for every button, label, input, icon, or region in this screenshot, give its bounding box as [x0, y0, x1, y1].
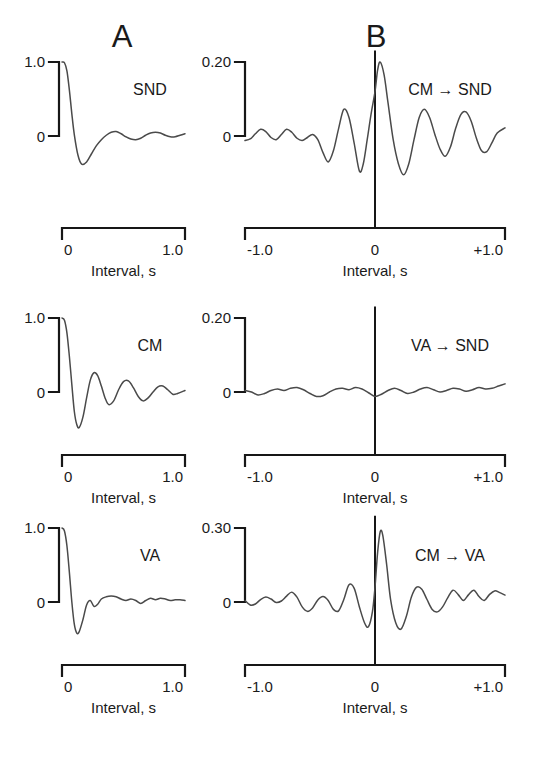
x-axis-title: Interval, s [342, 699, 407, 716]
y-tick-label-max: 0.20 [202, 53, 231, 70]
series-label: CM → VA [415, 547, 485, 564]
y-tick-label-max: 1.0 [24, 519, 45, 536]
y-tick-label-zero: 0 [37, 384, 45, 401]
x-tick-label: 0 [64, 678, 72, 695]
series-label: CM [138, 337, 163, 354]
x-axis-title: Interval, s [342, 262, 407, 279]
panel-letter-b: B [366, 19, 387, 54]
y-tick-label-zero: 0 [223, 128, 231, 145]
series-label: SND [133, 81, 167, 98]
y-tick-label-zero: 0 [223, 384, 231, 401]
y-tick-label-max: 0.30 [202, 519, 231, 536]
panel-letter-a: A [112, 19, 133, 54]
series-label: VA → SND [411, 337, 489, 354]
x-tick-label: 0 [371, 678, 379, 695]
y-tick-label-zero: 0 [223, 594, 231, 611]
x-axis-title: Interval, s [91, 699, 156, 716]
y-tick-label-zero: 0 [37, 128, 45, 145]
x-tick-label: 0 [371, 468, 379, 485]
figure-container: A B 1.0001.0Interval, sSND0.200-1.00+1.0… [0, 0, 546, 778]
x-tick-label: -1.0 [247, 468, 273, 485]
series-label: CM → SND [408, 81, 492, 98]
figure-background [0, 0, 546, 778]
y-tick-label-max: 1.0 [24, 309, 45, 326]
x-tick-label: 0 [64, 468, 72, 485]
x-tick-label: +1.0 [473, 241, 503, 258]
x-tick-label: -1.0 [247, 241, 273, 258]
x-axis-title: Interval, s [91, 489, 156, 506]
y-tick-label-max: 0.20 [202, 309, 231, 326]
x-tick-label: 1.0 [162, 241, 183, 258]
x-tick-label: 0 [371, 241, 379, 258]
series-label: VA [140, 547, 160, 564]
x-tick-label: 1.0 [162, 468, 183, 485]
x-axis-title: Interval, s [342, 489, 407, 506]
y-tick-label-zero: 0 [37, 594, 45, 611]
y-tick-label-max: 1.0 [24, 53, 45, 70]
x-tick-label: +1.0 [473, 468, 503, 485]
x-tick-label: 1.0 [162, 678, 183, 695]
x-tick-label: +1.0 [473, 678, 503, 695]
x-tick-label: 0 [64, 241, 72, 258]
correlogram-figure: A B 1.0001.0Interval, sSND0.200-1.00+1.0… [0, 0, 546, 778]
x-axis-title: Interval, s [91, 262, 156, 279]
x-tick-label: -1.0 [247, 678, 273, 695]
